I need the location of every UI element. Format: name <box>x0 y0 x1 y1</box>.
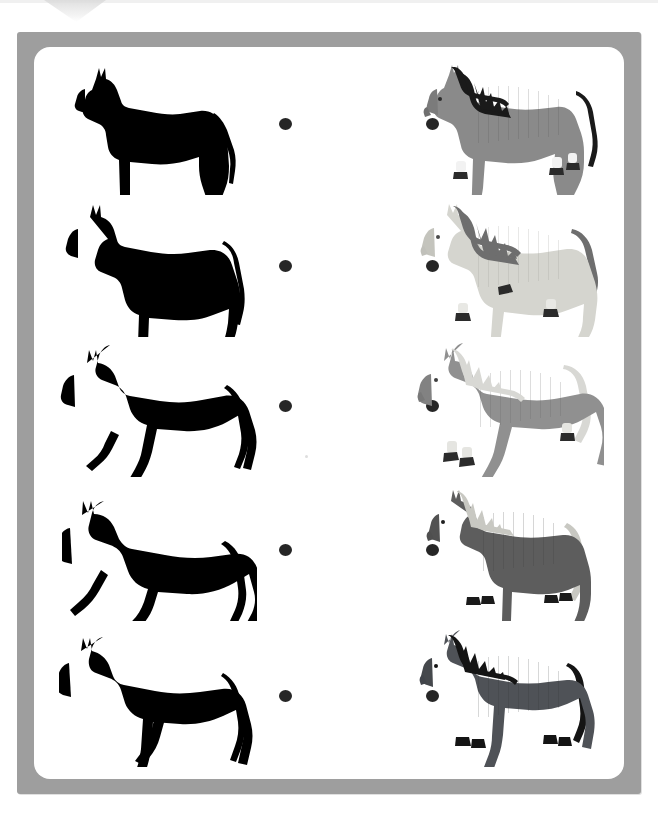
match-row <box>34 479 624 621</box>
worksheet-page <box>0 0 658 827</box>
horse-gray-light-mane-icon <box>414 335 604 477</box>
colored-horse-cell[interactable] <box>394 335 624 477</box>
colored-horse-cell[interactable] <box>394 479 624 621</box>
worksheet-frame-border <box>17 32 641 794</box>
silhouette-cell[interactable] <box>44 479 274 621</box>
silhouette-cell[interactable] <box>44 53 274 195</box>
faint-speck-artifact <box>305 455 308 458</box>
horse-white-gray-mane-icon <box>414 195 604 337</box>
match-row <box>34 53 624 195</box>
horse-gray-black-mane-icon <box>416 53 602 195</box>
colored-horse-cell[interactable] <box>394 53 624 195</box>
horse-slate-black-mane-icon <box>416 625 602 767</box>
match-row <box>34 625 624 767</box>
match-row <box>34 195 624 337</box>
horse-darkgray-light-mane-icon <box>421 479 597 621</box>
silhouette-cell[interactable] <box>44 625 274 767</box>
connector-dot-left[interactable] <box>279 118 292 130</box>
horse-silhouette-cantering-icon <box>59 335 259 477</box>
colored-horse-cell[interactable] <box>394 195 624 337</box>
connector-dot-left[interactable] <box>279 260 292 272</box>
horse-silhouette-trotting-icon <box>64 195 254 337</box>
connector-dot-left[interactable] <box>279 690 292 702</box>
worksheet-card <box>34 47 624 779</box>
connector-dot-left[interactable] <box>279 544 292 556</box>
connector-dot-left[interactable] <box>279 400 292 412</box>
silhouette-cell[interactable] <box>44 335 274 477</box>
ribbon-notch-decoration <box>44 0 106 22</box>
horse-silhouette-standing-icon <box>68 53 250 195</box>
match-row <box>34 335 624 477</box>
colored-horse-cell[interactable] <box>394 625 624 767</box>
horse-silhouette-jumping-icon <box>62 479 257 621</box>
silhouette-cell[interactable] <box>44 195 274 337</box>
horse-silhouette-walking-icon <box>59 625 259 767</box>
